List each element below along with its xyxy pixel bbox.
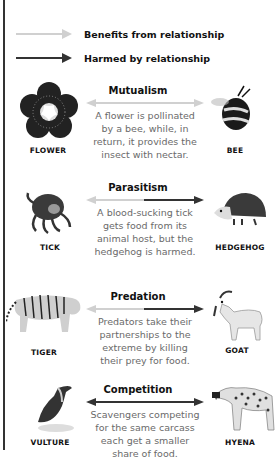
light-arrow-icon [16, 29, 72, 39]
legend-benefits: Benefits from relationship [16, 27, 224, 41]
legend-benefits-label: Benefits from relationship [84, 29, 224, 40]
predation-description: Predators take theirpartnerships to the … [90, 315, 200, 367]
tiger-label: TIGER [14, 348, 74, 357]
tick-label: TICK [20, 243, 80, 252]
parasitism-description: A blood-sucking tickgets food from its a… [90, 206, 200, 258]
left-border-line [3, 0, 5, 450]
parasitism-arrow [86, 196, 204, 206]
vulture-icon [28, 380, 80, 434]
competition-arrow [86, 398, 204, 408]
hyena-icon [212, 380, 276, 434]
goat-icon [210, 286, 266, 342]
mutualism-title: Mutualism [88, 85, 188, 96]
hyena-label: HYENA [212, 438, 268, 447]
vulture-label: VULTURE [18, 438, 82, 447]
hedgehog-icon [212, 187, 268, 229]
predation-arrow [86, 305, 204, 315]
legend-harmed-label: Harmed by relationship [84, 53, 210, 64]
mutualism-arrow [86, 99, 204, 109]
bee-icon [210, 84, 258, 134]
mutualism-description: A flower is pollinatedby a bee, while, i… [90, 109, 200, 161]
flower-label: FLOWER [18, 146, 78, 155]
goat-label: GOAT [212, 346, 262, 355]
flower-icon [20, 82, 78, 140]
bee-label: BEE [210, 146, 260, 155]
legend-harmed: Harmed by relationship [16, 51, 210, 65]
parasitism-title: Parasitism [88, 182, 188, 193]
dark-arrow-icon [16, 53, 72, 63]
competition-description: Scavengers competingfor the same carcass… [90, 408, 200, 460]
hedgehog-label: HEDGEHOG [208, 243, 272, 252]
tick-icon [22, 185, 78, 235]
tiger-icon [6, 288, 82, 334]
predation-title: Predation [88, 291, 188, 302]
competition-title: Competition [88, 384, 188, 395]
